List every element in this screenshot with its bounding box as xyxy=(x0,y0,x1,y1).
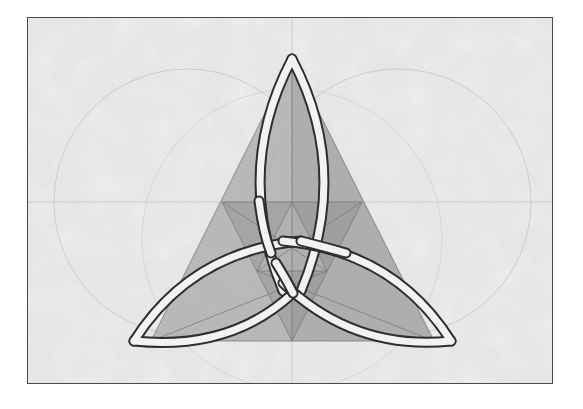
drawing-frame xyxy=(27,17,553,384)
triquetra-diagram xyxy=(28,18,553,384)
